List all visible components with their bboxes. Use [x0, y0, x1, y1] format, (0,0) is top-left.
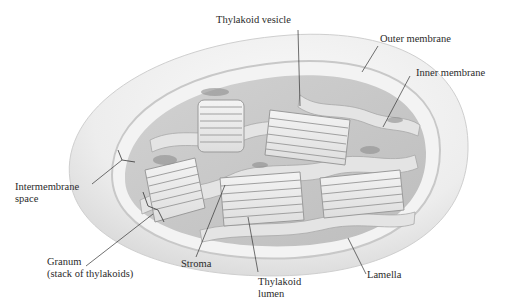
- granum-center: [220, 172, 304, 226]
- label-inner-membrane: Inner membrane: [416, 67, 485, 79]
- label-thylakoid-vesicle: Thylakoid vesicle: [216, 14, 291, 26]
- label-granum: Granum (stack of thylakoids): [47, 256, 133, 280]
- label-lamella: Lamella: [367, 269, 401, 281]
- granum-upper-left: [198, 100, 244, 152]
- label-thylakoid-lumen: Thylakoid lumen: [258, 276, 301, 300]
- label-outer-membrane: Outer membrane: [380, 33, 451, 45]
- label-intermembrane-space: Intermembrane space: [15, 181, 79, 205]
- granum-right: [320, 170, 404, 218]
- granum-upper-right: [265, 110, 350, 165]
- label-stroma: Stroma: [181, 258, 211, 270]
